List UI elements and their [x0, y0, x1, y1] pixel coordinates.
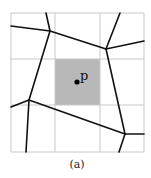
voronoi-diagram: p (a)	[0, 0, 151, 178]
edge-c-left	[11, 100, 29, 107]
point-label: p	[80, 68, 88, 83]
figure-caption: (a)	[69, 158, 84, 171]
edge-b-right	[106, 41, 144, 49]
site-point	[74, 79, 79, 84]
edge-a-left	[11, 26, 50, 31]
edge-c-bottom	[26, 100, 29, 152]
edge-a-top	[46, 13, 50, 31]
edge-c-a	[29, 31, 50, 100]
edge-b-d	[106, 49, 125, 134]
edge-a-b	[50, 31, 106, 49]
edge-b-top	[106, 13, 120, 49]
edge-d-bottom	[119, 134, 125, 152]
